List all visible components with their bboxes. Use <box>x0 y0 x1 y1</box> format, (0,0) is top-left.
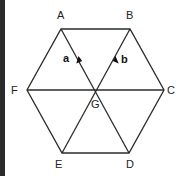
label-C: C <box>167 84 175 96</box>
label-F: F <box>11 84 18 96</box>
diagonal-AD <box>61 29 129 153</box>
label-B: B <box>126 9 133 21</box>
label-G: G <box>91 98 100 110</box>
label-E: E <box>55 158 62 170</box>
label-D: D <box>126 158 134 170</box>
vector-label-a: a <box>63 52 70 64</box>
vector-b-arrow-icon <box>113 56 119 64</box>
vector-label-b: b <box>121 53 128 65</box>
diagonal-BE <box>62 29 130 153</box>
hexagon-diagram: A B C D E F G a b <box>0 0 182 176</box>
label-A: A <box>57 9 65 21</box>
